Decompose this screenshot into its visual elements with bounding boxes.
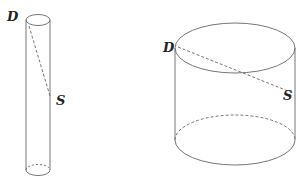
wide-cylinder-top-ellipse [175,23,295,73]
wide-cylinder-dashed-path [178,47,293,93]
wide-cylinder-label-d: D [163,41,174,54]
thin-cylinder-bottom-back [26,165,50,171]
thin-cylinder-label-s: S [56,94,65,107]
thin-cylinder-label-d: D [7,10,18,23]
wide-cylinder-bottom-front [175,140,295,165]
thin-cylinder-top-ellipse [26,15,50,26]
wide-cylinder [175,23,295,165]
thin-cylinder-bottom-front [26,170,50,176]
thin-cylinder-dashed-path [29,26,50,96]
thin-cylinder [26,15,50,176]
wide-cylinder-bottom-back [175,115,295,140]
wide-cylinder-label-s: S [283,89,292,102]
diagram-canvas [0,0,303,183]
